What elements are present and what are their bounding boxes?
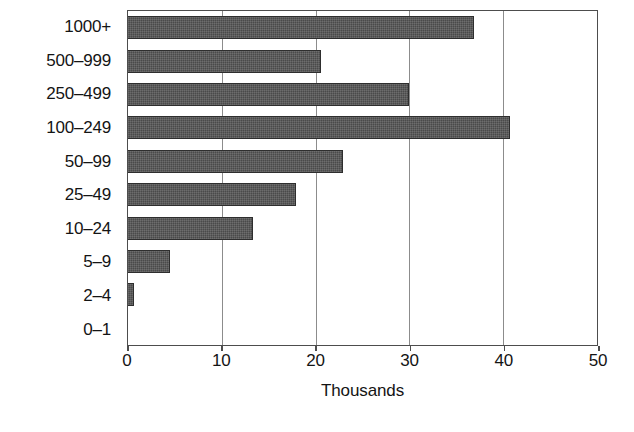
y-axis-label: 50–99 xyxy=(65,153,111,170)
bar-row xyxy=(128,11,597,44)
y-axis-label: 25–49 xyxy=(65,186,111,203)
bars-layer xyxy=(128,11,597,345)
bar xyxy=(128,83,409,106)
bar xyxy=(128,50,321,73)
y-axis-label-cell: 100–249 xyxy=(10,111,120,145)
y-axis-label: 2–4 xyxy=(83,287,111,304)
bar-chart: 1000+500–999250–499100–24950–9925–4910–2… xyxy=(0,0,634,432)
x-axis-tick-label: 40 xyxy=(495,352,514,369)
bar-row xyxy=(128,278,597,311)
y-axis-label: 250–499 xyxy=(46,85,111,102)
y-axis-label: 0–1 xyxy=(83,321,111,338)
y-axis-label: 1000+ xyxy=(64,18,111,35)
bar xyxy=(128,283,134,306)
y-axis-label-cell: 2–4 xyxy=(10,279,120,313)
bar-row xyxy=(128,145,597,178)
y-axis-label-cell: 10–24 xyxy=(10,212,120,246)
y-axis-category-labels: 1000+500–999250–499100–24950–9925–4910–2… xyxy=(10,10,120,346)
bar xyxy=(128,16,474,39)
y-axis-label-cell: 250–499 xyxy=(10,77,120,111)
bar-row xyxy=(128,78,597,111)
y-axis-label: 10–24 xyxy=(65,220,111,237)
x-axis-tick-labels: 01020304050 xyxy=(127,352,598,378)
x-axis-tick-label: 30 xyxy=(400,352,419,369)
x-axis-tick-label: 0 xyxy=(122,352,131,369)
y-axis-label-cell: 50–99 xyxy=(10,144,120,178)
bar-row xyxy=(128,44,597,77)
bar xyxy=(128,150,343,173)
bar-row xyxy=(128,245,597,278)
x-axis-tick-label: 50 xyxy=(589,352,608,369)
x-axis-title: Thousands xyxy=(127,382,598,399)
bar xyxy=(128,250,170,273)
y-axis-label-cell: 0–1 xyxy=(10,312,120,346)
y-axis-label: 500–999 xyxy=(46,52,111,69)
bar xyxy=(128,217,253,240)
bar-row xyxy=(128,312,597,345)
bar-row xyxy=(128,111,597,144)
bar-row xyxy=(128,178,597,211)
x-axis-tick-label: 20 xyxy=(306,352,325,369)
bar-row xyxy=(128,211,597,244)
bar xyxy=(128,116,510,139)
y-axis-label-cell: 5–9 xyxy=(10,245,120,279)
bar xyxy=(128,183,296,206)
y-axis-label-cell: 1000+ xyxy=(10,10,120,44)
plot-area xyxy=(127,10,598,346)
y-axis-label-cell: 25–49 xyxy=(10,178,120,212)
y-axis-label: 100–249 xyxy=(46,119,111,136)
x-axis-tick-label: 10 xyxy=(212,352,231,369)
y-axis-label: 5–9 xyxy=(83,253,111,270)
y-axis-label-cell: 500–999 xyxy=(10,44,120,78)
